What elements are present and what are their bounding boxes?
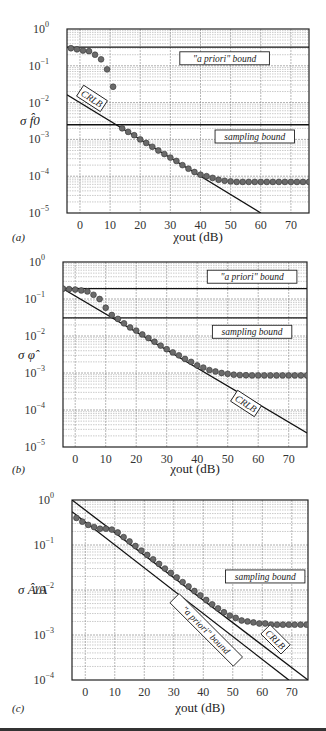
data-point bbox=[121, 534, 127, 540]
annotation-label: CRLB bbox=[77, 85, 108, 111]
data-point bbox=[286, 373, 292, 379]
data-point bbox=[252, 179, 258, 185]
data-point bbox=[234, 179, 240, 185]
data-point bbox=[288, 179, 294, 185]
data-point bbox=[155, 148, 161, 154]
data-point bbox=[104, 66, 110, 72]
annotation-text: sampling bound bbox=[235, 572, 296, 582]
data-point bbox=[131, 132, 137, 138]
y-tick-label: 10−4 bbox=[33, 671, 54, 687]
data-point bbox=[180, 162, 186, 168]
x-axis-label: χout (dB) bbox=[174, 700, 224, 715]
data-point bbox=[85, 289, 91, 295]
data-point bbox=[192, 169, 198, 175]
data-point bbox=[268, 373, 274, 379]
data-point bbox=[203, 597, 209, 603]
chart-panel-1: 01020304050607010010−110−210−310−410−5χo… bbox=[12, 20, 312, 244]
data-point bbox=[246, 179, 252, 185]
data-point bbox=[173, 158, 179, 164]
x-tick-label: 0 bbox=[72, 452, 78, 466]
y-tick-label: 10−1 bbox=[28, 57, 49, 73]
x-tick-label: 0 bbox=[82, 685, 88, 699]
y-tick-label: 10−2 bbox=[24, 327, 45, 343]
data-point bbox=[245, 619, 251, 625]
data-point bbox=[251, 620, 257, 626]
data-point bbox=[210, 175, 216, 181]
data-point bbox=[221, 609, 227, 615]
data-point bbox=[78, 288, 84, 294]
data-point bbox=[280, 622, 286, 628]
data-point bbox=[200, 365, 206, 371]
series-group bbox=[67, 45, 312, 213]
data-point bbox=[204, 173, 210, 179]
data-point bbox=[152, 339, 158, 345]
panel-label: (a) bbox=[12, 231, 25, 244]
data-point bbox=[237, 372, 243, 378]
data-point bbox=[243, 372, 249, 378]
data-point bbox=[231, 372, 237, 378]
chart-panel-2: 01020304050607010010−110−210−310−410−5χo… bbox=[12, 253, 310, 476]
data-point bbox=[282, 179, 288, 185]
data-point bbox=[91, 524, 97, 530]
data-point bbox=[174, 575, 180, 581]
x-tick-label: 60 bbox=[255, 218, 267, 232]
data-point bbox=[197, 592, 203, 598]
data-point bbox=[219, 370, 225, 376]
data-point bbox=[182, 356, 188, 362]
series-group bbox=[60, 286, 310, 433]
x-tick-label: 70 bbox=[286, 685, 298, 699]
x-tick-label: 20 bbox=[138, 685, 150, 699]
data-point bbox=[80, 48, 86, 54]
data-point bbox=[156, 561, 162, 567]
data-point bbox=[186, 166, 192, 172]
data-point bbox=[225, 371, 231, 377]
annotation-text: "a priori" bound bbox=[193, 54, 257, 64]
x-axis-label: χout (dB) bbox=[172, 229, 222, 244]
data-point bbox=[133, 328, 139, 334]
data-point bbox=[115, 316, 121, 322]
y-tick-label: 10−2 bbox=[28, 94, 49, 110]
y-tick-label: 10−3 bbox=[33, 626, 54, 642]
data-point bbox=[158, 343, 164, 349]
y-tick-label: 100 bbox=[33, 20, 49, 36]
data-point bbox=[167, 155, 173, 161]
data-point bbox=[66, 286, 72, 292]
x-tick-label: 10 bbox=[109, 685, 121, 699]
data-point bbox=[286, 622, 292, 628]
x-tick-label: 50 bbox=[227, 685, 239, 699]
x-axis-label: χout (dB) bbox=[169, 461, 219, 476]
x-tick-label: 30 bbox=[168, 685, 180, 699]
data-point bbox=[180, 579, 186, 585]
data-point bbox=[228, 179, 234, 185]
data-point bbox=[209, 601, 215, 607]
data-point bbox=[298, 622, 304, 628]
x-tick-label: 50 bbox=[225, 218, 237, 232]
y-tick-label: 10−3 bbox=[28, 130, 49, 146]
x-tick-label: 50 bbox=[222, 452, 234, 466]
data-point bbox=[74, 515, 80, 521]
data-point bbox=[149, 144, 155, 150]
data-point bbox=[161, 151, 167, 157]
data-point bbox=[192, 588, 198, 594]
data-point bbox=[150, 556, 156, 562]
data-point bbox=[125, 129, 131, 135]
data-point bbox=[233, 615, 239, 621]
y-tick-label: 10−5 bbox=[24, 438, 45, 454]
data-point bbox=[255, 373, 261, 379]
data-point bbox=[72, 287, 78, 293]
y-tick-label: 10−4 bbox=[24, 401, 45, 417]
y-tick-label: 10−1 bbox=[33, 536, 54, 552]
data-point bbox=[91, 292, 97, 298]
data-point bbox=[86, 48, 92, 54]
figure: 01020304050607010010−110−210−310−410−5χo… bbox=[0, 0, 326, 731]
data-point bbox=[280, 373, 286, 379]
data-point bbox=[121, 320, 127, 326]
data-point bbox=[127, 539, 133, 545]
y-tick-label: 10−4 bbox=[28, 167, 49, 183]
annotation-label: sampling bound bbox=[212, 325, 291, 338]
data-point bbox=[97, 526, 103, 532]
data-point bbox=[264, 179, 270, 185]
x-tick-label: 70 bbox=[285, 218, 297, 232]
data-point bbox=[162, 566, 168, 572]
annotation-text: sampling bound bbox=[224, 132, 285, 142]
